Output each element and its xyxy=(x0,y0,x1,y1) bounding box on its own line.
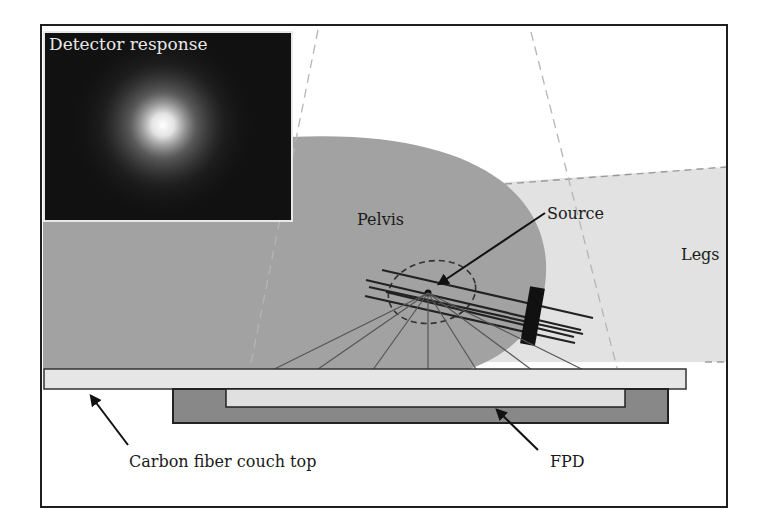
diagram-figure: Detector response Pelvis Source Legs Car… xyxy=(0,0,767,528)
detector-response-inset: Detector response xyxy=(44,30,292,221)
fpd-label: FPD xyxy=(550,452,585,471)
pelvis-label: Pelvis xyxy=(357,210,404,229)
source-label: Source xyxy=(547,204,604,223)
inset-title: Detector response xyxy=(49,34,207,54)
detector-response-glow xyxy=(68,30,258,220)
carbon-fiber-couch-top xyxy=(44,369,686,389)
legs-label: Legs xyxy=(681,245,720,264)
couch-top-label: Carbon fiber couch top xyxy=(129,452,316,471)
fpd-active-area xyxy=(226,389,625,407)
